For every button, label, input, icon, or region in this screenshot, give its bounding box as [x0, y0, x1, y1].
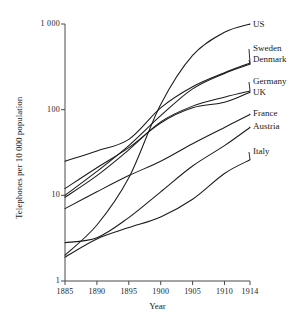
axes-group [61, 24, 250, 285]
series-label-italy: Italy [253, 146, 270, 156]
chart-figure: 1 000100101 1885189018951900190519101914… [0, 0, 308, 321]
leader-line-germany [249, 82, 250, 91]
x-tick-label-1885: 1885 [49, 287, 81, 296]
series-label-germany: Germany [253, 76, 287, 86]
series-line-us [65, 24, 250, 255]
x-axis-title: Year [65, 301, 250, 311]
series-label-denmark: Denmark [253, 54, 287, 64]
series-line-germany [65, 91, 250, 197]
series-label-sweden: Sweden [253, 43, 282, 53]
series-label-uk: UK [253, 87, 266, 97]
x-tick-label-1890: 1890 [81, 287, 113, 296]
leader-line-italy [249, 152, 250, 160]
y-tick-label-1: 1 [12, 276, 60, 285]
y-axis-title: Telephones per 10 000 population [14, 96, 24, 218]
x-tick-label-1900: 1900 [145, 287, 177, 296]
x-tick-label-1905: 1905 [177, 287, 209, 296]
leader-line-uk [249, 92, 250, 93]
x-tick-label-1895: 1895 [113, 287, 145, 296]
series-label-us: US [253, 19, 265, 29]
series-line-austria [65, 127, 250, 242]
y-tick-label-1000: 1 000 [12, 19, 60, 28]
series-label-france: France [253, 108, 278, 118]
x-tick-label-1914: 1914 [234, 287, 266, 296]
series-label-austria: Austria [253, 121, 280, 131]
series-lines [65, 24, 250, 257]
